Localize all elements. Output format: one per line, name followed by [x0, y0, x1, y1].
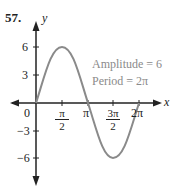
x-tick-label-pi-half: π 2 [54, 107, 70, 132]
x-tick-label-pi: π [83, 106, 89, 121]
x-axis-right-arrow-icon [153, 100, 162, 107]
x-tick-label-two-pi: 2π [131, 106, 143, 121]
y-axis-label: y [42, 11, 47, 26]
fraction-numerator: π [59, 107, 65, 119]
fraction-numerator: 3π [107, 107, 118, 119]
fraction-denominator: 2 [59, 120, 65, 132]
fraction-denominator: 2 [110, 120, 116, 132]
y-tick-label-6: 6 [22, 40, 28, 55]
period-annotation: Period = 2π [92, 74, 148, 89]
y-tick-label-3: 3 [22, 68, 28, 83]
x-axis-left-arrow-icon [10, 100, 19, 107]
origin-label: 0 [24, 106, 30, 121]
y-tick-label-neg3: −3 [17, 124, 30, 139]
y-tick-label-neg6: −6 [17, 151, 30, 166]
y-axis-up-arrow-icon [33, 21, 40, 31]
x-axis-label: x [164, 95, 169, 110]
x-tick-label-three-pi-half: 3π 2 [103, 107, 123, 132]
y-axis-down-arrow-icon [33, 176, 40, 186]
problem-number: 57. [5, 10, 21, 26]
amplitude-annotation: Amplitude = 6 [92, 57, 162, 72]
